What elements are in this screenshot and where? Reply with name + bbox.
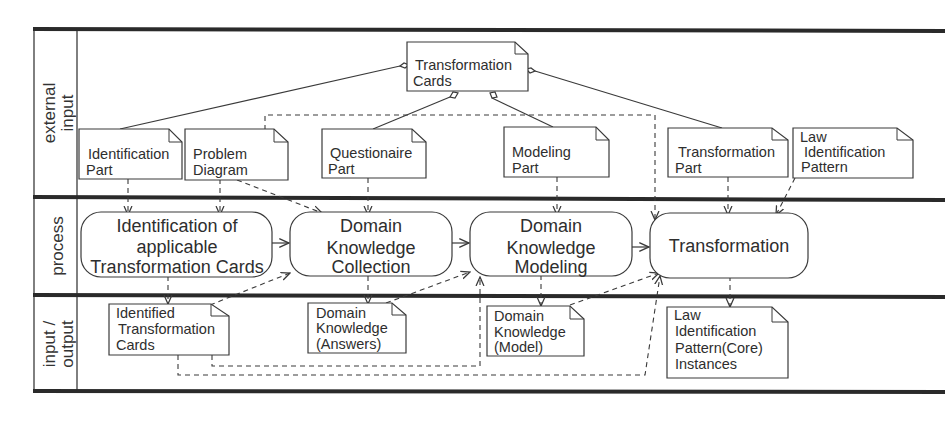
note-domain-knowledge-answers: Domain Knowledge (Answers) [308,303,406,353]
note-domain-knowledge-model: Domain Knowledge (Model) [487,306,584,356]
process-domain-knowledge-modeling: Domain Knowledge Modeling [470,212,632,277]
svg-text:Domain: Domain [316,305,366,321]
svg-text:Collection: Collection [331,257,410,277]
lane-label-process: process [48,216,67,276]
svg-text:Transformation Cards: Transformation Cards [90,257,263,277]
svg-text:Pattern(Core): Pattern(Core) [675,340,763,356]
svg-text:Transformation: Transformation [118,321,215,337]
svg-text:Cards: Cards [116,337,155,353]
svg-text:Part: Part [86,162,113,178]
process-identification: Identification of applicable Transformat… [81,212,272,277]
svg-text:Modeling: Modeling [514,257,587,277]
process-domain-knowledge-collection: Domain Knowledge Collection [290,212,452,277]
svg-text:input: input [58,94,77,131]
svg-text:Transformation: Transformation [415,57,512,73]
svg-text:Modeling: Modeling [512,144,571,160]
svg-text:Part: Part [675,160,702,176]
svg-text:Transformation: Transformation [678,144,775,160]
svg-text:process: process [48,216,67,276]
svg-text:Knowledge: Knowledge [316,320,388,336]
svg-text:input /: input / [40,321,59,368]
svg-text:Identification: Identification [804,144,885,160]
process-transformation: Transformation [650,213,808,278]
svg-text:Law: Law [800,129,827,145]
lane-label-input-output: input / output [40,320,77,368]
svg-text:Instances: Instances [675,356,737,372]
note-transformation-cards: Transformation Cards [407,42,528,91]
svg-text:Cards: Cards [413,73,452,89]
svg-text:(Model): (Model) [494,339,543,355]
svg-text:Domain: Domain [494,308,544,324]
note-law-identification-pattern-instances: Law Identification Pattern(Core) Instanc… [667,307,788,378]
lane-label-external-input: external input [40,83,77,143]
svg-text:Domain: Domain [340,216,402,236]
svg-text:Domain: Domain [520,216,582,236]
svg-text:Knowledge: Knowledge [326,238,415,258]
svg-text:Knowledge: Knowledge [506,238,595,258]
note-modeling-part: Modeling Part [504,127,609,177]
note-problem-diagram: Problem Diagram [185,129,288,180]
note-questionaire-part: Questionaire Part [322,129,426,178]
svg-text:output: output [58,320,77,368]
svg-text:Part: Part [328,161,355,177]
svg-text:Identified: Identified [116,305,175,321]
note-transformation-part: Transformation Part [668,128,788,177]
note-identified-transformation-cards: Identified Transformation Cards [109,304,229,355]
svg-text:Law: Law [674,307,701,323]
svg-text:Identification: Identification [675,323,756,339]
svg-text:external: external [40,83,59,143]
svg-text:Part: Part [512,160,539,176]
svg-text:Knowledge: Knowledge [494,324,566,340]
note-identification-part: Identification Part [79,129,182,179]
svg-text:Transformation: Transformation [669,236,789,256]
svg-text:applicable: applicable [136,237,217,257]
diagram-canvas: external input process input / output [0,0,951,422]
svg-text:(Answers): (Answers) [316,336,381,352]
svg-text:Identification: Identification [88,146,169,162]
svg-text:Pattern: Pattern [801,159,848,175]
svg-text:Identification of: Identification of [116,216,238,236]
note-law-identification-pattern: Law Identification Pattern [793,128,913,178]
svg-text:Questionaire: Questionaire [330,145,412,161]
svg-text:Problem: Problem [193,146,247,162]
svg-text:Diagram: Diagram [193,162,248,178]
